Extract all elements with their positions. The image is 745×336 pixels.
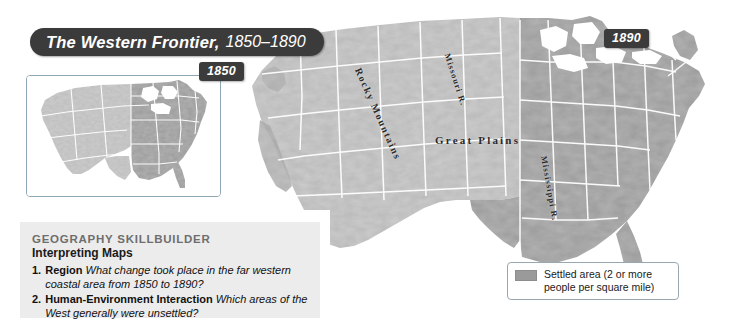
question-1-term: Region <box>45 264 82 276</box>
date-badge-1850: 1850 <box>199 62 244 81</box>
figure-title-years: 1850–1890 <box>226 33 306 51</box>
skillbuilder-question-2: 2. Human-Environment Interaction Which a… <box>32 293 308 320</box>
question-1-text: What change took place in the far wester… <box>45 264 291 290</box>
question-2-number: 2. <box>32 293 41 320</box>
question-1-number: 1. <box>32 264 41 291</box>
geography-skillbuilder-panel: GEOGRAPHY SKILLBUILDER Interpreting Maps… <box>20 222 320 318</box>
skillbuilder-question-1: 1. Region What change took place in the … <box>32 264 308 291</box>
skillbuilder-subtitle: Interpreting Maps <box>32 246 308 261</box>
figure-title-bar: The Western Frontier, 1850–1890 <box>30 28 324 56</box>
legend-label-line2: people per square mile) <box>544 281 654 293</box>
question-2-term: Human-Environment Interaction <box>45 293 212 305</box>
map-figure: Great Plains Rocky Mountains Missouri R.… <box>0 0 745 336</box>
legend-swatch-settled-area <box>515 270 537 281</box>
figure-title-main: The Western Frontier, <box>46 33 220 52</box>
date-badge-1890: 1890 <box>604 29 649 48</box>
skillbuilder-kicker: GEOGRAPHY SKILLBUILDER <box>32 232 308 246</box>
legend-label: Settled area (2 or more people per squar… <box>544 268 654 294</box>
legend-label-line1: Settled area (2 or more <box>544 268 652 280</box>
inset-map-svg <box>27 76 220 196</box>
map-legend: Settled area (2 or more people per squar… <box>507 262 679 300</box>
inset-map-1850 <box>26 75 221 197</box>
